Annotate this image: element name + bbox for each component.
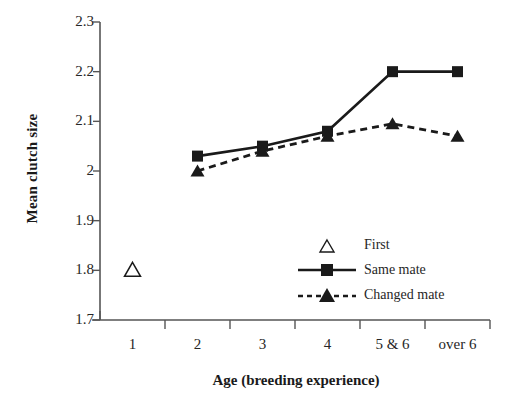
x-axis-tick-label: 2	[165, 336, 230, 353]
x-axis-tick-label: 1	[100, 336, 165, 353]
dashed-line-triangle-icon	[296, 285, 358, 305]
solid-line-square-icon	[296, 260, 358, 280]
legend-label-changed-mate: Changed mate	[358, 287, 444, 303]
data-point-changed-mate[interactable]	[386, 117, 400, 129]
data-point-first[interactable]	[125, 262, 141, 276]
x-axis-title: Age (breeding experience)	[100, 372, 492, 389]
x-axis-tick-label: 4	[295, 336, 360, 353]
series-line-same-mate	[198, 72, 458, 156]
legend-label-first: First	[358, 237, 390, 253]
open-triangle-icon	[296, 235, 358, 255]
data-point-same-mate[interactable]	[192, 151, 203, 162]
data-point-changed-mate[interactable]	[451, 130, 465, 142]
legend-item-same-mate: Same mate	[296, 257, 444, 282]
clutch-size-chart: Mean clutch size 1.71.81.922.12.22.3 Age…	[0, 0, 509, 414]
legend-item-changed-mate: Changed mate	[296, 282, 444, 307]
x-axis-tick-label: 3	[230, 336, 295, 353]
legend-label-same-mate: Same mate	[358, 262, 426, 278]
data-point-same-mate[interactable]	[387, 66, 398, 77]
legend-item-first: First	[296, 232, 444, 257]
data-point-same-mate[interactable]	[452, 66, 463, 77]
x-axis-tick-label: over 6	[425, 336, 490, 353]
chart-legend: First Same mate Changed mate	[296, 232, 444, 307]
x-axis-tick-label: 5 & 6	[360, 336, 425, 353]
